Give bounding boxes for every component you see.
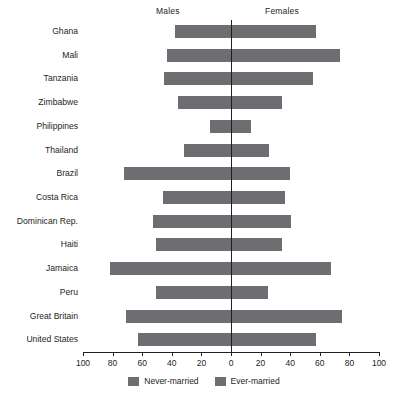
bar-row	[84, 67, 380, 91]
bar-female	[232, 25, 316, 38]
bar-female	[232, 262, 331, 275]
bar-male	[110, 262, 231, 275]
x-axis-tick-label: 0	[229, 358, 234, 368]
category-label: Philippines	[0, 121, 78, 131]
bar-male	[156, 286, 231, 299]
females-header-label: Females	[265, 6, 299, 16]
bar-male	[163, 191, 231, 204]
bar-male	[164, 72, 231, 85]
x-axis-tick	[231, 352, 232, 356]
bar-female	[232, 72, 313, 85]
bar-row	[84, 44, 380, 68]
bar-row	[84, 328, 380, 352]
category-label: Mali	[0, 50, 78, 60]
category-label: United States	[0, 334, 78, 344]
x-axis-tick-label: 100	[372, 358, 386, 368]
zero-axis-line	[231, 20, 232, 352]
bar-male	[184, 144, 231, 157]
bar-male	[178, 96, 231, 109]
x-axis-tick	[379, 352, 380, 356]
bar-male	[126, 310, 231, 323]
bar-male	[156, 238, 231, 251]
x-axis-tick-label: 20	[256, 358, 265, 368]
bar-row	[84, 115, 380, 139]
bar-row	[84, 162, 380, 186]
x-axis-tick-label: 40	[167, 358, 176, 368]
bar-male	[167, 49, 231, 62]
x-axis-tick	[83, 352, 84, 356]
x-axis-tick-label: 80	[345, 358, 354, 368]
bar-row	[84, 210, 380, 234]
bar-row	[84, 20, 380, 44]
bar-male	[138, 333, 231, 346]
x-axis-line	[84, 352, 380, 353]
x-axis-tick-label: 80	[108, 358, 117, 368]
category-label: Jamaica	[0, 263, 78, 273]
bar-female	[232, 286, 268, 299]
x-axis-tick	[320, 352, 321, 356]
bar-row	[84, 139, 380, 163]
legend-label: Ever-married	[231, 376, 280, 386]
plot-area	[84, 20, 380, 352]
x-axis-tick-label: 60	[315, 358, 324, 368]
x-axis-tick-label: 20	[197, 358, 206, 368]
bar-female	[232, 120, 251, 133]
bar-row	[84, 233, 380, 257]
category-label: Zimbabwe	[0, 97, 78, 107]
x-axis-tick	[172, 352, 173, 356]
bar-male	[153, 215, 231, 228]
bar-row	[84, 305, 380, 329]
bar-female	[232, 167, 290, 180]
category-label: Costa Rica	[0, 192, 78, 202]
legend-swatch-icon	[128, 377, 139, 386]
bar-row	[84, 186, 380, 210]
x-axis-tick-label: 40	[285, 358, 294, 368]
bar-male	[124, 167, 231, 180]
legend-label: Never-married	[144, 376, 198, 386]
category-label: Dominican Rep.	[0, 216, 78, 226]
category-label: Tanzania	[0, 73, 78, 83]
x-axis-tick	[201, 352, 202, 356]
x-axis-tick	[290, 352, 291, 356]
bar-female	[232, 215, 291, 228]
x-axis-tick-label: 60	[137, 358, 146, 368]
bar-row	[84, 91, 380, 115]
legend-item: Never-married	[128, 376, 198, 386]
category-label: Great Britain	[0, 311, 78, 321]
bar-female	[232, 144, 269, 157]
males-header-label: Males	[156, 6, 180, 16]
bar-female	[232, 238, 282, 251]
x-axis-tick	[113, 352, 114, 356]
legend-swatch-icon	[215, 377, 226, 386]
category-label: Ghana	[0, 26, 78, 36]
bar-male	[210, 120, 231, 133]
bar-male	[175, 25, 231, 38]
bar-female	[232, 191, 285, 204]
bar-row	[84, 281, 380, 305]
bar-female	[232, 49, 340, 62]
x-axis-tick	[142, 352, 143, 356]
category-label: Thailand	[0, 145, 78, 155]
x-axis-tick	[261, 352, 262, 356]
category-label: Haiti	[0, 239, 78, 249]
population-pyramid-chart: Males Females GhanaMaliTanzaniaZimbabweP…	[0, 0, 408, 398]
legend-item: Ever-married	[215, 376, 280, 386]
category-label: Brazil	[0, 168, 78, 178]
category-label: Peru	[0, 287, 78, 297]
chart-legend: Never-marriedEver-married	[0, 376, 408, 386]
bar-female	[232, 310, 342, 323]
bar-row	[84, 257, 380, 281]
bar-female	[232, 333, 316, 346]
x-axis-tick	[349, 352, 350, 356]
x-axis-tick-label: 100	[76, 358, 90, 368]
bar-female	[232, 96, 282, 109]
